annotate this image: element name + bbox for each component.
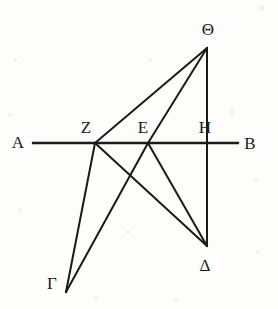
paper-speck	[229, 109, 234, 114]
vertex-beta	[237, 142, 239, 144]
line-theta-z	[95, 48, 207, 143]
vertex-zeta	[94, 142, 96, 144]
line-e-delta	[148, 143, 207, 246]
point-label-theta: Θ	[202, 21, 214, 38]
line-z-delta	[95, 143, 207, 246]
point-label-epsilon: Ε	[138, 119, 148, 136]
point-label-gamma: Γ	[47, 275, 57, 292]
geometric-diagram: ΑΖΕΗΒΘΔΓ	[0, 0, 278, 309]
vertex-alpha	[32, 142, 34, 144]
diagram-canvas	[0, 0, 278, 309]
paper-speck	[94, 296, 98, 300]
point-label-alpha: Α	[12, 134, 24, 151]
point-label-delta: Δ	[200, 257, 211, 274]
line-z-gamma	[66, 143, 95, 292]
paper-speck	[259, 5, 265, 11]
point-label-eta: Η	[199, 119, 211, 136]
paper-speck	[8, 113, 12, 117]
point-label-beta: Β	[244, 135, 255, 152]
point-label-zeta: Ζ	[81, 119, 91, 136]
line-e-gamma	[66, 143, 148, 292]
vertex-eta	[206, 142, 208, 144]
vertex-gamma	[65, 291, 67, 293]
vertex-theta	[206, 47, 208, 49]
vertex-epsilon	[147, 142, 149, 144]
paper-speck	[126, 230, 130, 234]
vertex-delta	[206, 245, 208, 247]
